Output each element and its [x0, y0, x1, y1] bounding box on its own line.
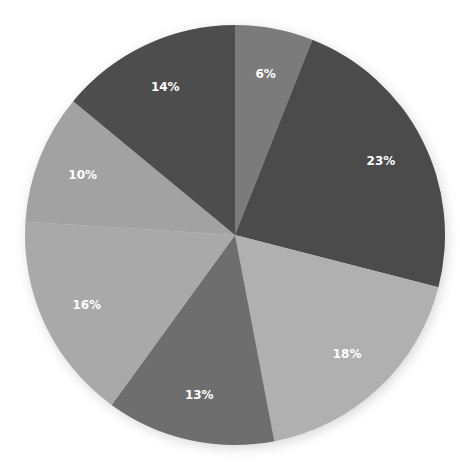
slice-label: 18% [333, 347, 362, 361]
slice-label: 14% [151, 80, 180, 94]
slice-label: 16% [72, 298, 101, 312]
slice-label: 10% [68, 168, 97, 182]
slice-label: 23% [367, 154, 396, 168]
slice-label: 13% [185, 388, 214, 402]
pie-slices [25, 25, 445, 445]
slice-label: 6% [256, 67, 276, 81]
pie-chart: 6%23%18%13%16%10%14% [0, 0, 460, 470]
